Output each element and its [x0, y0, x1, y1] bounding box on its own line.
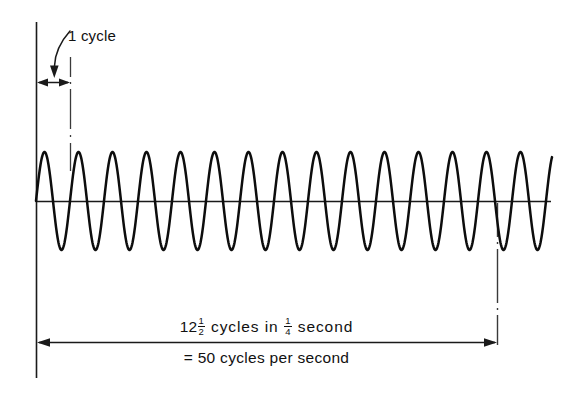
fraction-one-half-denominator: 2: [198, 326, 205, 337]
quarter-second-dimension-arrow: [37, 338, 497, 347]
fraction-one-quarter-numerator: 1: [284, 316, 291, 326]
caption-cycles-count: 12: [180, 318, 197, 335]
caption-cycles-in-quarter-second: 1212 cycles in 14 second: [0, 317, 533, 338]
frequency-wave-figure: 1 cycle 1212 cycles in 14 second = 50 cy…: [0, 0, 583, 395]
fraction-one-half: 12: [198, 316, 205, 337]
fraction-one-half-numerator: 1: [198, 316, 205, 326]
caption-cycles-in-text: cycles in: [206, 318, 284, 335]
caption-second-text: second: [293, 318, 354, 335]
one-cycle-label: 1 cycle: [68, 28, 116, 43]
fraction-one-quarter: 14: [284, 316, 291, 337]
cycle-leader-arrow: [50, 31, 70, 78]
one-cycle-dimension-arrow: [37, 79, 70, 87]
fraction-one-quarter-denominator: 4: [284, 326, 291, 337]
caption-cycles-per-second: = 50 cycles per second: [0, 350, 533, 366]
